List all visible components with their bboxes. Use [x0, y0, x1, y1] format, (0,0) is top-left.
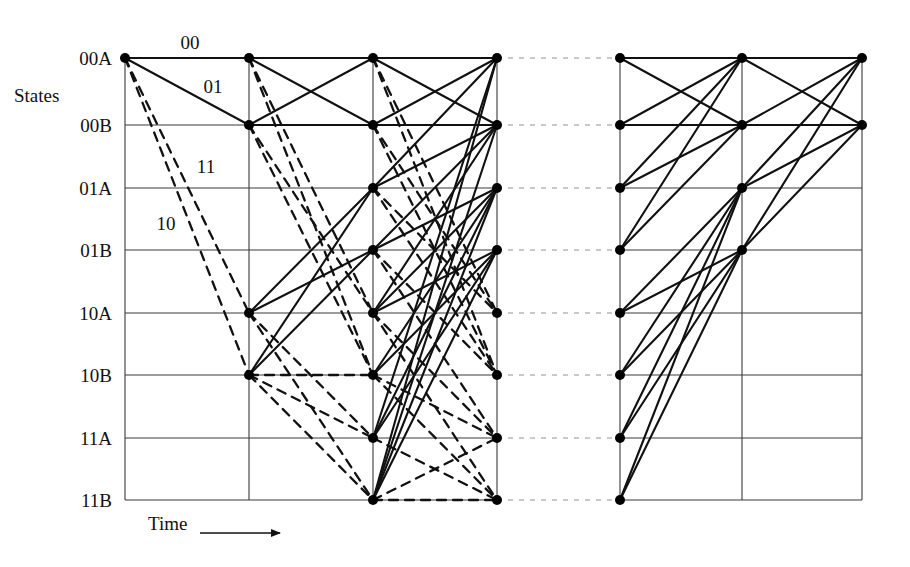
trellis-node-01B-col5 — [737, 245, 747, 255]
trellis-node-01A-col5 — [737, 183, 747, 193]
trellis-node-11B-col2 — [368, 495, 378, 505]
trellis-node-11B-col4 — [615, 495, 625, 505]
trellis-node-10A-col4 — [615, 308, 625, 318]
edge-solid-01A-to-00B — [742, 125, 862, 188]
trellis-canvas — [0, 0, 910, 567]
trellis-node-11B-col3 — [492, 495, 502, 505]
state-label-10A: 10A — [30, 304, 112, 323]
trellis-node-00B-col2 — [368, 120, 378, 130]
edge-solid-11B-to-01A — [620, 188, 742, 500]
branch-label-11: 11 — [197, 157, 215, 176]
edge-dashed-10B-to-11A — [373, 375, 497, 438]
trellis-node-00B-col3 — [492, 120, 502, 130]
edge-dashed-00B-to-10A — [249, 125, 373, 313]
edge-dashed-00A-to-10A — [125, 58, 249, 313]
trellis-node-00B-col6 — [857, 120, 867, 130]
trellis-node-10A-col1 — [244, 308, 254, 318]
trellis-node-00B-col4 — [615, 120, 625, 130]
trellis-node-00A-col2 — [368, 53, 378, 63]
trellis-node-10B-col1 — [244, 370, 254, 380]
trellis-node-10A-col3 — [492, 308, 502, 318]
state-label-00B: 00B — [30, 116, 112, 135]
state-label-00A: 00A — [30, 49, 112, 68]
trellis-node-11A-col2 — [368, 433, 378, 443]
trellis-node-10B-col2 — [368, 370, 378, 380]
trellis-node-11A-col4 — [615, 433, 625, 443]
trellis-node-00A-col1 — [244, 53, 254, 63]
branch-label-01: 01 — [204, 77, 223, 96]
edge-solid-11B-to-01A — [373, 188, 497, 500]
edge-dashed-10B-to-11A — [249, 375, 373, 438]
trellis-figure: 00A00B01A01B10A10B11A11B 00011110 States… — [0, 0, 910, 567]
trellis-node-10A-col2 — [368, 308, 378, 318]
trellis-node-00A-col4 — [615, 53, 625, 63]
edge-solid-10B-to-01A — [620, 188, 742, 375]
branch-label-10: 10 — [157, 214, 176, 233]
trellis-node-00A-col6 — [857, 53, 867, 63]
trellis-node-11A-col3 — [492, 433, 502, 443]
branch-label-00: 00 — [181, 33, 200, 52]
trellis-node-01B-col2 — [368, 245, 378, 255]
state-label-01B: 01B — [30, 241, 112, 260]
trellis-node-00A-col0 — [120, 53, 130, 63]
trellis-node-00A-col3 — [492, 53, 502, 63]
state-label-11B: 11B — [30, 491, 112, 510]
edge-solid-01B-to-00A — [742, 58, 862, 250]
state-label-10B: 10B — [30, 366, 112, 385]
edge-dashed-00A-to-10A — [249, 58, 373, 313]
states-axis-title: States — [14, 86, 59, 105]
trellis-node-01B-col4 — [615, 245, 625, 255]
edge-dashed-00A-to-10A — [373, 58, 497, 313]
edge-solid-00A-to-00B — [125, 58, 249, 125]
state-label-01A: 01A — [30, 179, 112, 198]
trellis-node-00B-col5 — [737, 120, 747, 130]
trellis-node-01A-col3 — [492, 183, 502, 193]
state-label-11A: 11A — [30, 429, 112, 448]
edge-solid-01A-to-00A — [620, 58, 742, 188]
trellis-node-01A-col2 — [368, 183, 378, 193]
time-axis-title: Time — [148, 514, 187, 533]
trellis-node-01A-col4 — [615, 183, 625, 193]
edge-solid-01A-to-00B — [620, 125, 742, 188]
edge-solid-01B-to-00A — [620, 58, 742, 250]
trellis-node-00A-col5 — [737, 53, 747, 63]
trellis-node-10B-col3 — [492, 370, 502, 380]
trellis-node-01B-col3 — [492, 245, 502, 255]
edge-dashed-00A-to-10B — [125, 58, 249, 375]
trellis-node-10B-col4 — [615, 370, 625, 380]
trellis-node-00B-col1 — [244, 120, 254, 130]
edge-solid-01A-to-00A — [742, 58, 862, 188]
